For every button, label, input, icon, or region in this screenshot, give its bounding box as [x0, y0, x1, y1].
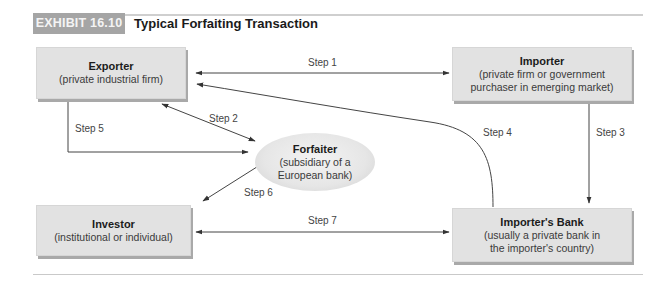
step-3-label: Step 3	[596, 127, 625, 138]
exporter-node: Exporter (private industrial firm)	[36, 47, 186, 99]
importers-bank-node: Importer's Bank (usually a private bank …	[452, 208, 632, 262]
step-1-label: Step 1	[308, 57, 337, 68]
footer-rule	[33, 274, 643, 275]
importer-node: Importer (private firm or government pur…	[452, 47, 632, 101]
forfaiter-node: Forfaiter (subsidiary of a European bank…	[255, 133, 375, 191]
node-name: Forfaiter	[255, 143, 375, 156]
node-name: Exporter	[37, 60, 185, 73]
node-name: Importer	[453, 55, 631, 68]
node-desc: (private firm or government	[453, 68, 631, 81]
node-desc: (institutional or individual)	[37, 231, 190, 244]
node-desc: purchaser in emerging market)	[453, 81, 631, 94]
node-name: Investor	[37, 218, 190, 231]
step-2-label: Step 2	[209, 113, 238, 124]
step-7-label: Step 7	[308, 215, 337, 226]
node-desc: (usually a private bank in	[453, 229, 631, 242]
node-name: Importer's Bank	[453, 216, 631, 229]
node-desc: (subsidiary of a	[255, 156, 375, 169]
node-desc: European bank)	[255, 169, 375, 182]
step-4-label: Step 4	[483, 127, 512, 138]
node-desc: (private industrial firm)	[37, 73, 185, 86]
step-5-label: Step 5	[75, 123, 104, 134]
step-6-label: Step 6	[244, 187, 273, 198]
investor-node: Investor (institutional or individual)	[36, 205, 191, 256]
node-desc: the importer's country)	[453, 242, 631, 255]
